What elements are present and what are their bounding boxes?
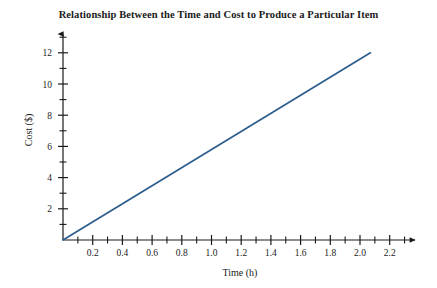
x-tick-label: 2.0 (354, 248, 366, 258)
x-axis: 0.2 0.4 0.6 0.8 1.0 1.2 1.4 1.6 1.8 2.0 … (63, 235, 415, 279)
cost-vs-time-line (63, 53, 370, 240)
x-tick-label: 2.2 (384, 248, 396, 258)
y-axis-tick-labels: 2 4 6 8 10 12 (43, 48, 53, 214)
line-chart-plot: 2 4 6 8 10 12 Cost ($) (0, 0, 437, 288)
x-axis-title: Time (h) (223, 267, 258, 279)
y-axis-title: Cost ($) (23, 114, 35, 147)
y-tick-label: 4 (47, 173, 52, 183)
y-tick-label: 12 (43, 48, 53, 58)
y-axis: 2 4 6 8 10 12 Cost ($) (23, 34, 68, 240)
y-tick-label: 10 (43, 80, 53, 90)
x-tick-label: 0.2 (87, 248, 99, 258)
x-tick-label: 0.4 (116, 248, 128, 258)
y-tick-label: 6 (47, 142, 52, 152)
x-tick-label: 1.2 (235, 248, 247, 258)
x-tick-label: 1.8 (324, 248, 336, 258)
x-tick-label: 1.4 (265, 248, 277, 258)
y-tick-label: 2 (47, 204, 52, 214)
x-tick-label: 0.8 (176, 248, 188, 258)
x-tick-label: 1.0 (206, 248, 218, 258)
chart-page: Relationship Between the Time and Cost t… (0, 0, 437, 288)
x-axis-tick-labels: 0.2 0.4 0.6 0.8 1.0 1.2 1.4 1.6 1.8 2.0 … (87, 248, 396, 258)
y-tick-label: 8 (47, 111, 52, 121)
x-tick-label: 1.6 (295, 248, 307, 258)
x-tick-label: 0.6 (146, 248, 158, 258)
